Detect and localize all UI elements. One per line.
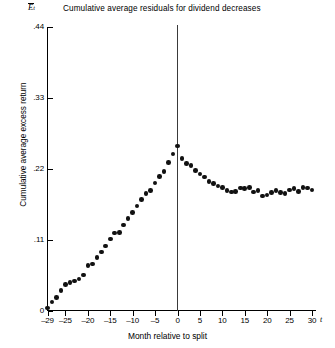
data-point [189, 163, 194, 168]
data-point [135, 204, 140, 209]
data-point [202, 175, 207, 180]
data-point [162, 169, 167, 174]
data-point [180, 156, 185, 161]
data-point [233, 189, 238, 194]
data-point [220, 185, 225, 190]
data-point [103, 244, 108, 249]
data-point [130, 210, 135, 215]
data-point [310, 188, 315, 193]
x-tick-label: 30 [299, 316, 325, 325]
data-point [211, 181, 216, 186]
data-point [117, 230, 122, 235]
data-point [283, 191, 288, 196]
data-point [296, 189, 301, 194]
data-point [148, 188, 153, 193]
chart-figure: Cumulative average residuals for dividen… [0, 0, 335, 348]
y-tick-mark [48, 169, 53, 170]
data-point [193, 168, 198, 173]
y-tick-label: .33 [20, 93, 44, 102]
data-point [121, 223, 126, 228]
y-tick-label: .11 [20, 235, 44, 244]
y-tick-mark [48, 98, 53, 99]
data-point [126, 216, 131, 221]
data-point [157, 174, 162, 179]
data-point [72, 279, 77, 284]
y-tick-label: .22 [20, 164, 44, 173]
y-tick-mark [48, 27, 53, 28]
data-point [108, 237, 113, 242]
data-point [171, 152, 176, 157]
y-axis-label: Cumulative average excess return [19, 55, 28, 235]
data-point [45, 306, 50, 311]
data-point [256, 188, 261, 193]
y-axis-symbol-subscript: t [33, 5, 35, 11]
chart-title: Cumulative average residuals for dividen… [63, 4, 261, 13]
y-axis-symbol: Et [28, 2, 35, 12]
data-point [77, 277, 82, 282]
data-point [90, 262, 95, 267]
data-point [59, 288, 64, 293]
data-point [247, 185, 252, 190]
x-axis-label: Month relative to split [0, 331, 335, 341]
y-tick-label: 0 [20, 306, 44, 315]
data-point [175, 144, 180, 149]
data-point [95, 255, 100, 260]
data-point [50, 300, 55, 305]
y-tick-mark [48, 240, 53, 241]
data-point [166, 160, 171, 165]
data-point [54, 295, 59, 300]
macron-overbar [28, 3, 34, 4]
data-point [81, 273, 86, 278]
data-point [153, 181, 158, 186]
data-point [99, 250, 104, 255]
data-point [139, 197, 144, 202]
split-month-vertical-line [177, 25, 178, 311]
y-tick-mark [48, 311, 53, 312]
y-tick-label: .44 [20, 22, 44, 31]
